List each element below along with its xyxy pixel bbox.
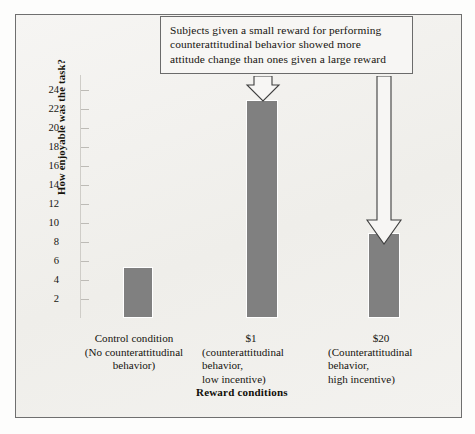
annotation-callout: Subjects given a small reward for perfor… (160, 16, 413, 74)
x-category-label-dollar1: $1 (counterattitudinal behavior, low inc… (196, 332, 334, 386)
y-tick-label-6: 6 (19, 256, 59, 266)
x-category-label-control: Control condition (No counterattitudinal… (58, 332, 210, 373)
x-label-dollar1-line-3: behavior, (202, 359, 334, 373)
y-tick-10 (81, 223, 89, 224)
x-label-dollar1-line-4: low incentive) (202, 373, 334, 387)
y-tick-20 (81, 128, 89, 129)
chart-figure: Subjects given a small reward for perfor… (0, 0, 475, 434)
y-tick-label-14: 14 (19, 180, 59, 190)
x-label-dollar20-line-4: high incentive) (328, 373, 468, 387)
y-tick-8 (81, 242, 89, 243)
y-tick-12 (81, 204, 89, 205)
y-tick-label-4: 4 (19, 275, 59, 285)
y-tick-2 (81, 299, 89, 300)
y-tick-18 (81, 147, 89, 148)
x-label-dollar20-line-2: (Counterattitudinal (328, 346, 468, 360)
y-tick-label-24: 24 (19, 85, 59, 95)
y-tick-label-12: 12 (19, 199, 59, 209)
annotation-arrow-to-dollar20 (362, 76, 406, 246)
x-label-dollar20-line-1: $20 (328, 332, 468, 346)
x-label-control-line-3: behavior) (58, 359, 210, 373)
y-axis-line (80, 75, 81, 318)
y-tick-22 (81, 109, 89, 110)
x-label-dollar1-line-2: (counterattitudinal (202, 346, 334, 360)
x-label-dollar1-line-1: $1 (202, 332, 334, 346)
annotation-line-1: Subjects given a small reward for perfor… (170, 23, 403, 37)
y-tick-16 (81, 166, 89, 167)
y-tick-label-8: 8 (19, 237, 59, 247)
y-tick-6 (81, 261, 89, 262)
y-tick-label-2: 2 (19, 294, 59, 304)
annotation-line-3: attitude change than ones given a large … (170, 52, 403, 66)
x-label-control-line-1: Control condition (58, 332, 210, 346)
x-label-control-line-2: (No counterattitudinal (58, 346, 210, 360)
x-label-dollar20-line-3: behavior, (328, 359, 468, 373)
y-tick-label-20: 20 (19, 123, 59, 133)
y-tick-4 (81, 280, 89, 281)
annotation-arrow-to-dollar1 (243, 76, 283, 102)
bar-control-condition (123, 267, 153, 318)
y-tick-24 (81, 90, 89, 91)
x-axis-title: Reward conditions (196, 386, 288, 398)
y-tick-label-18: 18 (19, 142, 59, 152)
annotation-line-2: counterattitudinal behavior showed more (170, 37, 403, 51)
y-tick-label-16: 16 (19, 161, 59, 171)
bar-dollar1 (246, 100, 278, 318)
y-tick-14 (81, 185, 89, 186)
y-tick-label-10: 10 (19, 218, 59, 228)
x-category-label-dollar20: $20 (Counterattitudinal behavior, high i… (322, 332, 468, 386)
y-tick-label-22: 22 (19, 104, 59, 114)
